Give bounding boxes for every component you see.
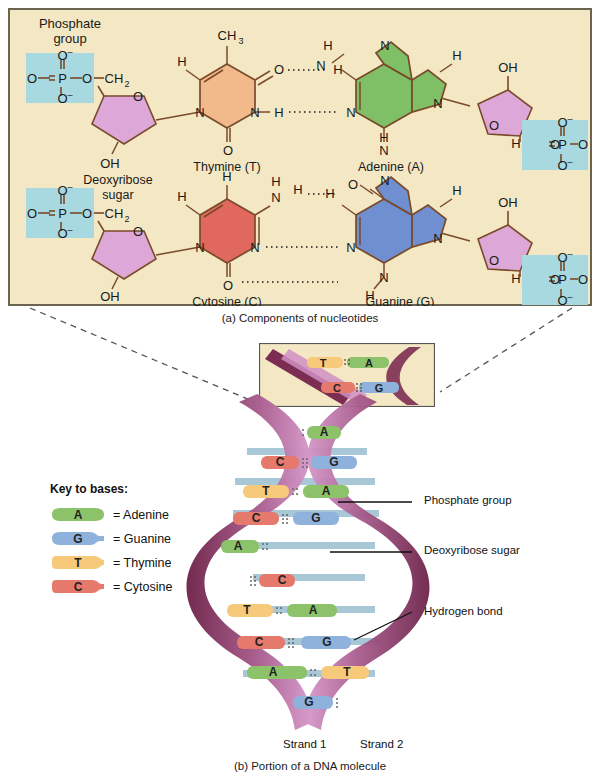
svg-text:P: P bbox=[58, 206, 67, 221]
svg-text:OH: OH bbox=[100, 156, 120, 171]
svg-text:N: N bbox=[250, 240, 259, 255]
panel-b-caption: (b) Portion of a DNA molecule bbox=[180, 760, 440, 772]
svg-text:O: O bbox=[82, 206, 92, 221]
legend-letter-thymine: T bbox=[50, 555, 106, 570]
legend-label-guanine: = Guanine bbox=[113, 532, 171, 546]
svg-text:P: P bbox=[58, 71, 67, 86]
svg-text:O: O bbox=[489, 253, 499, 268]
svg-text:O: O bbox=[57, 183, 67, 198]
svg-text:H: H bbox=[379, 130, 388, 145]
legend-swatch-adenine: A bbox=[50, 507, 106, 522]
svg-text:N: N bbox=[379, 270, 388, 285]
svg-text:3: 3 bbox=[238, 36, 243, 46]
svg-text:2: 2 bbox=[124, 79, 129, 89]
svg-text:N: N bbox=[271, 190, 280, 205]
svg-text:O: O bbox=[578, 137, 588, 152]
svg-text:T: T bbox=[320, 357, 327, 369]
svg-text:O: O bbox=[57, 226, 67, 241]
svg-text:CH: CH bbox=[105, 71, 124, 86]
svg-text:–: – bbox=[67, 182, 72, 192]
svg-text:H: H bbox=[271, 174, 280, 189]
svg-text:H: H bbox=[274, 105, 283, 120]
svg-text:C: C bbox=[255, 635, 264, 649]
svg-text:O: O bbox=[274, 62, 284, 77]
svg-text:H: H bbox=[452, 48, 461, 63]
svg-text:N: N bbox=[346, 105, 355, 120]
svg-text:N: N bbox=[195, 240, 204, 255]
legend-item-guanine: G = Guanine bbox=[50, 529, 225, 548]
svg-text:N: N bbox=[380, 38, 389, 53]
svg-text:N: N bbox=[316, 58, 325, 73]
svg-text:O: O bbox=[82, 71, 92, 86]
legend-label-thymine: = Thymine bbox=[113, 556, 171, 570]
svg-text:–: – bbox=[67, 225, 72, 235]
svg-text:H: H bbox=[333, 62, 342, 77]
legend-item-cytosine: C = Cytosine bbox=[50, 577, 225, 596]
svg-text:O: O bbox=[489, 118, 499, 133]
legend-item-thymine: T = Thymine bbox=[50, 553, 225, 572]
legend-key-to-bases: Key to bases: A = Adenine G = Guanine bbox=[50, 482, 225, 601]
legend-swatch-thymine: T bbox=[50, 555, 106, 570]
svg-text:CH: CH bbox=[105, 206, 124, 221]
svg-text:C: C bbox=[278, 573, 287, 587]
svg-text:–: – bbox=[567, 157, 572, 167]
svg-text:N: N bbox=[433, 96, 442, 111]
svg-text:A: A bbox=[320, 425, 329, 439]
svg-text:A: A bbox=[309, 603, 318, 617]
svg-text:–: – bbox=[567, 114, 572, 124]
svg-text:–: – bbox=[67, 47, 72, 57]
svg-text:O: O bbox=[27, 71, 37, 86]
svg-text:O: O bbox=[133, 224, 143, 239]
svg-text:G: G bbox=[329, 455, 338, 469]
svg-text:H: H bbox=[293, 182, 302, 197]
svg-text:H: H bbox=[177, 54, 186, 69]
svg-text:Phosphate: Phosphate bbox=[39, 16, 101, 31]
legend-letter-guanine: G bbox=[50, 531, 106, 546]
svg-text:N: N bbox=[250, 105, 259, 120]
svg-text:P: P bbox=[558, 272, 567, 287]
strand-1-label: Strand 1 bbox=[283, 738, 326, 750]
svg-text:–: – bbox=[567, 249, 572, 259]
svg-text:N: N bbox=[195, 105, 204, 120]
svg-text:H: H bbox=[222, 169, 231, 184]
svg-text:Deoxyribose: Deoxyribose bbox=[83, 173, 153, 187]
svg-text:N: N bbox=[380, 173, 389, 188]
svg-text:A: A bbox=[234, 539, 243, 553]
svg-text:O: O bbox=[557, 158, 567, 173]
svg-text:H: H bbox=[452, 183, 461, 198]
svg-text:group: group bbox=[53, 31, 86, 46]
svg-text:T: T bbox=[243, 603, 251, 617]
legend-swatch-cytosine: C bbox=[50, 579, 106, 594]
svg-text:A: A bbox=[269, 665, 278, 679]
svg-text:H: H bbox=[325, 186, 334, 201]
svg-text:C: C bbox=[276, 455, 285, 469]
svg-text:O: O bbox=[557, 250, 567, 265]
svg-text:O: O bbox=[348, 177, 358, 192]
svg-text:N: N bbox=[346, 240, 355, 255]
svg-text:O: O bbox=[57, 91, 67, 106]
legend-letter-adenine: A bbox=[50, 507, 106, 522]
strand-2-label: Strand 2 bbox=[360, 738, 403, 750]
svg-text:O: O bbox=[578, 272, 588, 287]
legend-swatch-guanine: G bbox=[50, 531, 106, 546]
svg-text:T: T bbox=[262, 484, 270, 498]
legend-item-adenine: A = Adenine bbox=[50, 505, 225, 524]
callout-phosphate-group: Phosphate group bbox=[424, 494, 512, 506]
svg-text:sugar: sugar bbox=[102, 188, 133, 202]
svg-text:O: O bbox=[223, 143, 233, 158]
svg-text:O: O bbox=[557, 115, 567, 130]
svg-text:C: C bbox=[252, 511, 261, 525]
svg-text:O: O bbox=[27, 206, 37, 221]
svg-text:G: G bbox=[311, 511, 320, 525]
svg-text:–: – bbox=[67, 90, 72, 100]
svg-text:T: T bbox=[343, 665, 351, 679]
svg-text:A: A bbox=[365, 357, 373, 369]
svg-text:H: H bbox=[323, 38, 332, 53]
callout-hydrogen-bond: Hydrogen bond bbox=[424, 605, 503, 617]
callout-deoxyribose-sugar: Deoxyribose sugar bbox=[424, 544, 520, 556]
svg-text:2: 2 bbox=[124, 214, 129, 224]
panel-a-nucleotide-components: Phosphate group O P O– O– O CH2 O bbox=[8, 8, 592, 306]
panel-a-label-adenine: Adenine (A) bbox=[358, 160, 424, 174]
svg-text:G: G bbox=[304, 695, 313, 709]
svg-text:N: N bbox=[433, 231, 442, 246]
